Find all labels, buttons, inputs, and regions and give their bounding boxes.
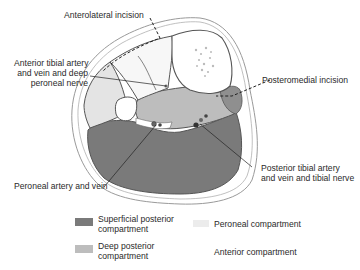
legend-item-superficial-posterior: Superficial posterior compartment [98, 214, 174, 234]
legend-item-peroneal: Peroneal compartment [214, 219, 301, 229]
posterior-tibial-vessel-icon [204, 114, 208, 118]
posteromedial-incision-label: Posteromedial incision [262, 75, 348, 85]
posterior-tibial-vessel-icon [199, 118, 203, 122]
anterior-tibial-artery-label: Anterior tibial artery and vein and deep… [14, 58, 88, 88]
legend-label: compartment [98, 224, 174, 234]
anterior-tibial-line1: Anterior tibial artery [14, 58, 88, 68]
leg-cross-section-diagram [0, 0, 360, 270]
anterior-tibial-line2: and vein and deep [14, 68, 88, 78]
peroneal-artery-label: Peroneal artery and vein [14, 181, 108, 191]
posterior-tibial-artery-label: Posterior tibial artery and vein and tib… [261, 163, 354, 183]
legend-label: Anterior compartment [214, 247, 297, 257]
legend-label: Superficial posterior [98, 214, 174, 224]
anterolateral-incision-label: Anterolateral incision [64, 10, 144, 20]
legend-item-deep-posterior: Deep posterior compartment [98, 241, 154, 261]
legend-swatch-peroneal [193, 220, 209, 227]
legend-label: compartment [98, 251, 154, 261]
posterior-tibial-vessel-icon [193, 122, 198, 127]
legend-item-anterior: Anterior compartment [214, 247, 297, 257]
legend-swatch-superficial-posterior [75, 218, 93, 226]
legend-swatch-deep-posterior [75, 245, 93, 253]
peroneal-vessel-icon [158, 123, 162, 127]
fibula-bone [115, 97, 136, 121]
legend-label: Peroneal compartment [214, 219, 301, 229]
posterior-tibial-line1: Posterior tibial artery [261, 163, 354, 173]
anterior-tibial-line3: peroneal nerve [14, 78, 88, 88]
posterior-tibial-line2: and vein and tibial nerve [261, 173, 354, 183]
legend-label: Deep posterior [98, 241, 154, 251]
